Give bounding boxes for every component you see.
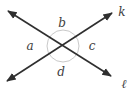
line-label-k: k bbox=[118, 5, 125, 19]
angle-label-left: a bbox=[26, 39, 33, 53]
intersecting-lines-figure: a b c d k ℓ bbox=[0, 0, 132, 97]
angle-label-bottom: d bbox=[57, 65, 65, 79]
line-label-l: ℓ bbox=[122, 77, 127, 91]
angle-label-right: c bbox=[89, 39, 96, 53]
geometry-diagram: a b c d k ℓ bbox=[0, 0, 132, 97]
angle-label-top: b bbox=[58, 16, 66, 30]
